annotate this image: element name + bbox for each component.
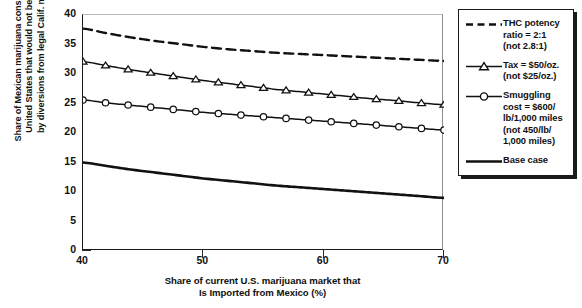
series-2-marker [373,122,379,128]
y-axis-title-line-1: Share of Mexican marijuana consumed in t… [13,0,25,141]
legend-item-2[interactable]: Smugglingcost = $600/lb/1,000 miles(not … [465,89,568,147]
legend-label-2-line-2: lb/1,000 miles [503,112,563,124]
x-tick-label-70: 70 [423,254,463,266]
legend-symbol-dashed-line-icon [465,18,503,31]
legend-symbol-circle-icon [465,90,503,103]
y-tick-label-20: 20 [48,125,76,137]
legend-label-2-line-1: cost = $600/ [503,101,563,113]
y-tick-label-25: 25 [48,96,76,108]
legend-symbol-solid-line-icon [465,155,503,168]
plot-area [82,14,443,250]
x-axis-title-line-2: Is Imported from Mexico (%) [82,287,443,299]
chart-figure: Share of Mexican marijuana consumed in t… [0,0,582,308]
series-1-line [83,62,444,105]
x-tick-label-60: 60 [303,254,343,266]
series-2-marker [83,97,86,103]
legend-label-0: THC potencyratio = 2:1(not 2.8:1) [503,17,560,52]
y-tick-label-35: 35 [48,37,76,49]
series-0-dashed-line [83,29,444,61]
legend-label-2-line-3: (not 450/lb/ [503,124,563,136]
series-2-marker [215,110,221,116]
series-2-marker [102,100,108,106]
y-tick-label-5: 5 [48,214,76,226]
legend-item-3[interactable]: Base case [465,154,568,168]
legend-label-1-line-1: (not $25/oz.) [503,70,559,82]
series-2-marker [125,102,131,108]
legend-label-0-line-0: THC potency [503,17,560,29]
legend-label-3: Base case [503,154,548,166]
y-axis-title-line-3: by diversions from legal Calif. market (… [36,0,48,133]
series-2-marker [418,125,424,131]
legend-label-2-line-0: Smuggling [503,89,563,101]
legend-label-1: Tax = $50/oz.(not $25/oz.) [503,59,559,82]
series-2-marker [396,124,402,130]
series-canvas [83,15,444,251]
series-1-marker [83,58,87,64]
series-2-marker [328,119,334,125]
series-3-base-line [83,163,444,198]
legend-symbol-triangle-icon [465,60,503,73]
series-2-marker [260,114,266,120]
legend-label-2: Smugglingcost = $600/lb/1,000 miles(not … [503,89,563,147]
series-2-marker [441,127,444,133]
legend-item-0[interactable]: THC potencyratio = 2:1(not 2.8:1) [465,17,568,52]
legend-label-2-line-4: 1,000 miles) [503,135,563,147]
legend-label-0-line-1: ratio = 2:1 [503,29,560,41]
x-axis-title-line-1: Share of current U.S. marijuana market t… [82,275,443,287]
series-2-marker [283,115,289,121]
legend-item-1[interactable]: Tax = $50/oz.(not $25/oz.) [465,59,568,82]
legend-label-3-line-0: Base case [503,154,548,166]
y-tick-label-30: 30 [48,66,76,78]
legend-label-0-line-2: (not 2.8:1) [503,40,560,52]
x-tick-label-40: 40 [62,254,102,266]
series-2-marker [170,106,176,112]
series-2-marker [147,104,153,110]
y-axis-title: Share of Mexican marijuana consumed in t… [2,0,58,162]
y-axis-title-line-2: United States that would not be undercut [24,0,36,133]
y-tick-label-15: 15 [48,155,76,167]
x-axis-title: Share of current U.S. marijuana market t… [82,275,443,300]
chart-legend: THC potencyratio = 2:1(not 2.8:1)Tax = $… [458,9,574,176]
y-tick-label-40: 40 [48,7,76,19]
y-tick-label-10: 10 [48,184,76,196]
legend-label-1-line-0: Tax = $50/oz. [503,59,559,71]
series-2-marker [305,117,311,123]
series-2-marker [193,108,199,114]
series-2-marker [351,120,357,126]
x-tick-label-50: 50 [182,254,222,266]
series-2-marker [238,112,244,118]
